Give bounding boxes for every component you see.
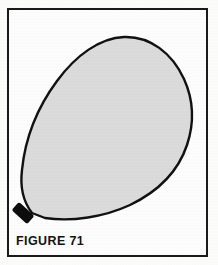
figure-caption: FIGURE 71	[16, 234, 84, 248]
balloon-body	[21, 37, 192, 219]
figure-illustration	[0, 0, 218, 265]
figure-plate: FIGURE 71	[0, 0, 218, 265]
